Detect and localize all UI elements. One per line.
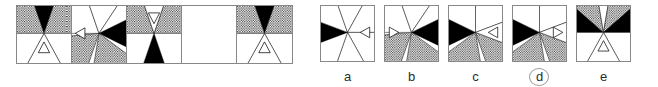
answer-option-figure-d[interactable] bbox=[512, 5, 567, 62]
answer-option-figure-e[interactable] bbox=[576, 5, 631, 62]
radial-wedge-figure-icon bbox=[237, 6, 292, 63]
matrix-cell bbox=[127, 6, 182, 63]
answer-option-label-selected-d[interactable]: d bbox=[529, 69, 551, 86]
radial-wedge-figure-icon bbox=[17, 6, 71, 63]
radial-wedge-figure-icon bbox=[385, 6, 438, 61]
radial-wedge-figure-icon bbox=[72, 6, 126, 63]
radial-wedge-figure-icon bbox=[449, 6, 502, 61]
answer-option-label-e[interactable]: e bbox=[593, 69, 615, 86]
answer-option-e[interactable]: e bbox=[576, 5, 631, 86]
matrix-cell-blank bbox=[182, 6, 237, 63]
matrix-panel bbox=[16, 5, 293, 64]
answer-option-label-b[interactable]: b bbox=[401, 69, 423, 86]
answer-option-figure-b[interactable] bbox=[384, 5, 439, 62]
radial-wedge-figure-icon bbox=[513, 6, 566, 61]
matrix-cell bbox=[237, 6, 292, 63]
puzzle-root: abcde bbox=[0, 0, 658, 87]
answer-option-b[interactable]: b bbox=[384, 5, 439, 86]
answer-option-label-c[interactable]: c bbox=[465, 69, 487, 86]
radial-wedge-figure-icon bbox=[577, 6, 630, 61]
radial-wedge-figure-icon bbox=[321, 6, 374, 61]
answer-option-a[interactable]: a bbox=[320, 5, 375, 86]
answer-option-figure-a[interactable] bbox=[320, 5, 375, 62]
matrix-cell bbox=[72, 6, 127, 63]
matrix-cell bbox=[17, 6, 72, 63]
answer-options-row: abcde bbox=[320, 5, 631, 86]
answer-option-c[interactable]: c bbox=[448, 5, 503, 86]
answer-option-label-a[interactable]: a bbox=[337, 69, 359, 86]
radial-wedge-figure-icon bbox=[127, 6, 181, 63]
answer-option-figure-c[interactable] bbox=[448, 5, 503, 62]
answer-option-d[interactable]: d bbox=[512, 5, 567, 86]
